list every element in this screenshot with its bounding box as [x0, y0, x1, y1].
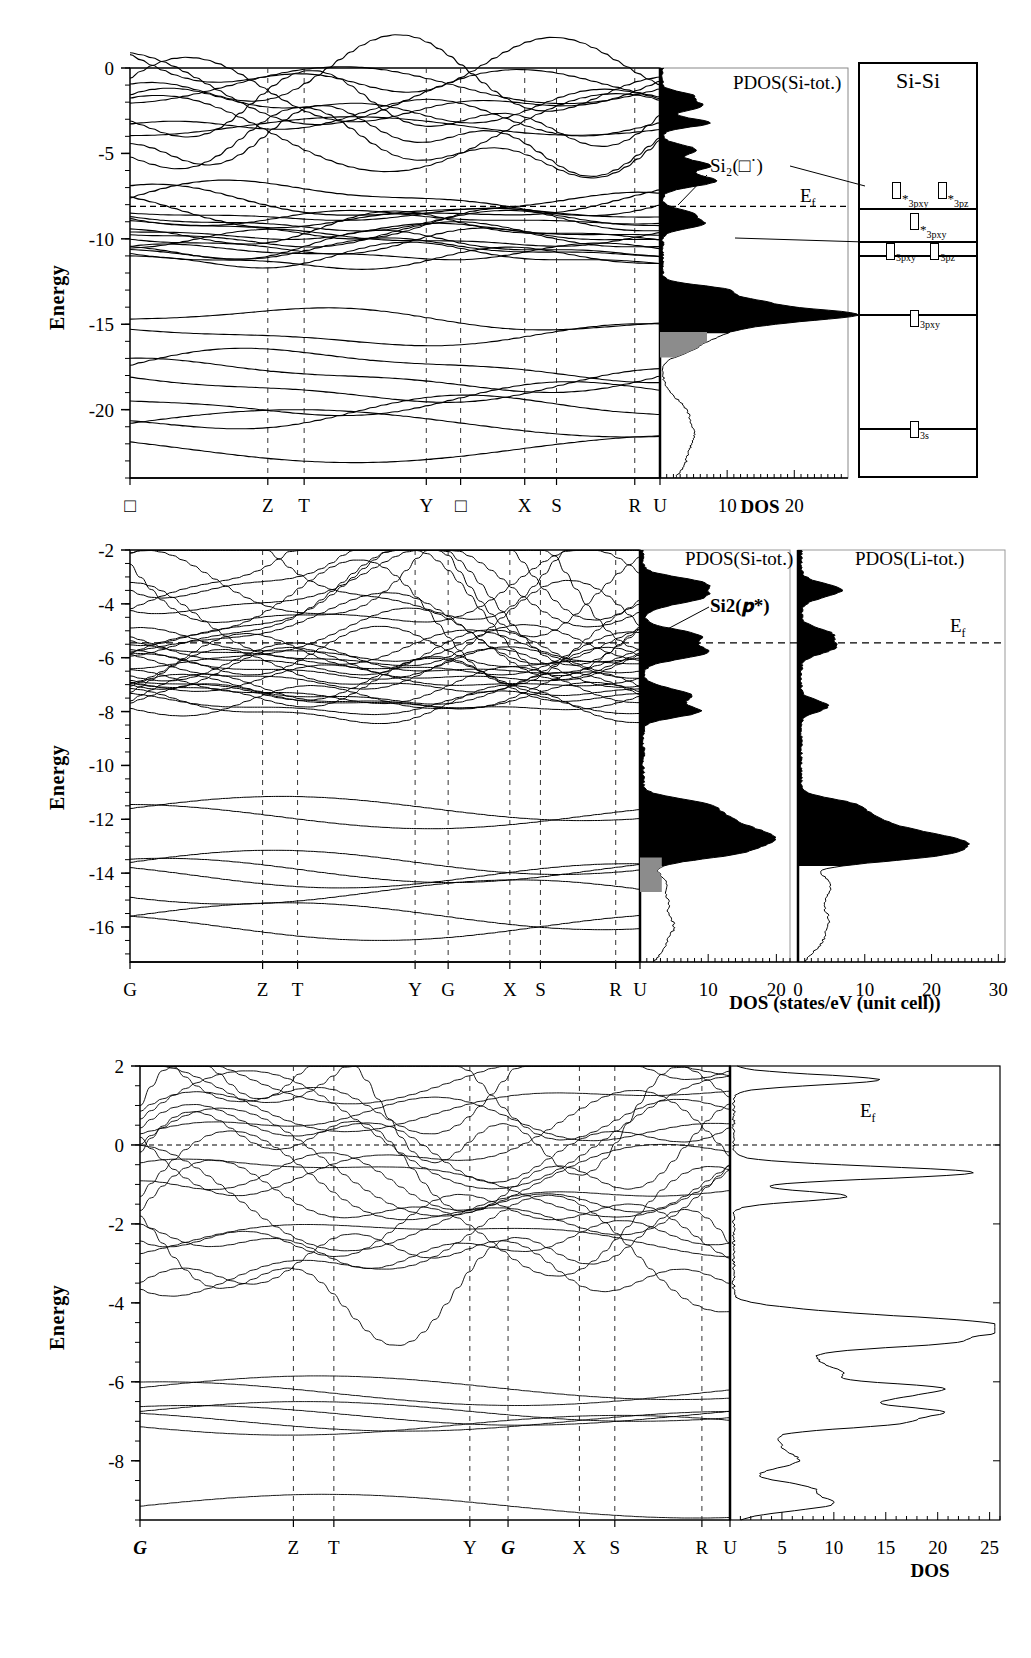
panel-2-band-structure-dos: Energy -2-4-6-8-10-12-14-16GZTYGXSRU1020…	[0, 530, 1031, 1030]
si-si-orbital-marker	[938, 182, 947, 199]
svg-text:-8: -8	[98, 702, 114, 723]
svg-text:-16: -16	[89, 917, 114, 938]
panel3-fermi-e: E	[860, 1100, 872, 1121]
panel1-pdos-label: PDOS(Si-tot.)	[733, 72, 841, 94]
panel2-fermi-label: Ef	[950, 615, 966, 641]
panel-3-band-structure-dos: Energy 20-2-4-6-8GZTYGXSRU510152025 DOS …	[0, 1020, 1031, 1620]
panel2-fermi-sub: f	[962, 626, 966, 640]
si-si-level-divider	[860, 255, 976, 257]
svg-text:-8: -8	[108, 1451, 124, 1472]
si-si-title: Si-Si	[860, 68, 976, 94]
svg-text:□: □	[124, 495, 136, 516]
si-si-orbital-label: 3s	[920, 430, 929, 441]
svg-text:-4: -4	[98, 594, 114, 615]
svg-text:-6: -6	[98, 648, 114, 669]
panel3-dos-axis-title: DOS	[870, 1560, 990, 1582]
panel1-si2-annotation: Si₂(□˙)	[710, 155, 763, 177]
svg-text:2: 2	[115, 1056, 125, 1077]
svg-text:Z: Z	[257, 979, 269, 1000]
svg-text:U: U	[653, 495, 667, 516]
svg-text:□: □	[455, 495, 467, 516]
svg-text:Y: Y	[419, 495, 433, 516]
svg-text:-2: -2	[98, 540, 114, 561]
panel2-pdos-li-label: PDOS(Li-tot.)	[855, 548, 964, 570]
svg-text:0: 0	[115, 1135, 125, 1156]
svg-text:-14: -14	[89, 863, 115, 884]
svg-text:X: X	[573, 1537, 587, 1558]
svg-text:Y: Y	[408, 979, 422, 1000]
panel2-pdos-si-label: PDOS(Si-tot.)	[685, 548, 793, 570]
svg-text:-2: -2	[108, 1214, 124, 1235]
svg-text:R: R	[628, 495, 641, 516]
svg-text:-6: -6	[108, 1372, 124, 1393]
svg-text:R: R	[609, 979, 622, 1000]
svg-text:S: S	[535, 979, 546, 1000]
si-si-orbital-label: *3pxy	[920, 222, 947, 240]
panel3-fermi-label: Ef	[860, 1100, 876, 1126]
svg-text:-12: -12	[89, 809, 114, 830]
panel1-dos-axis-title: DOS	[700, 496, 820, 518]
si-si-orbital-marker	[910, 213, 919, 230]
panel1-fermi-e: E	[800, 185, 812, 206]
svg-text:-10: -10	[89, 755, 114, 776]
svg-text:X: X	[518, 495, 532, 516]
svg-text:15: 15	[876, 1537, 895, 1558]
si-si-orbital-label: *3pz	[948, 191, 969, 209]
si-si-orbital-label: *3pxy	[902, 191, 929, 209]
si-si-level-diagram: Si-Si *3pxy*3pz*3pxy3pxy3pz3pxy3s	[858, 62, 978, 478]
svg-text:10: 10	[824, 1537, 843, 1558]
svg-text:-15: -15	[89, 314, 114, 335]
svg-text:U: U	[723, 1537, 737, 1558]
svg-text:G: G	[133, 1537, 147, 1558]
si-si-orbital-marker	[910, 421, 919, 438]
svg-text:G: G	[441, 979, 455, 1000]
si-si-orbital-marker	[910, 310, 919, 327]
svg-text:20: 20	[928, 1537, 947, 1558]
svg-text:5: 5	[777, 1537, 787, 1558]
si-si-orbital-label: 3pz	[940, 252, 954, 263]
svg-text:0: 0	[105, 58, 115, 79]
svg-text:G: G	[501, 1537, 515, 1558]
svg-text:25: 25	[980, 1537, 999, 1558]
panel-1-band-structure-dos: Energy 0-5-10-15-20□ZTY□XSRU1020 DOS PDO…	[0, 0, 1031, 540]
panel1-fermi-sub: f	[812, 196, 816, 210]
svg-text:T: T	[298, 495, 310, 516]
panel2-dos-axis-title: DOS (states/eV (unit cell))	[640, 992, 1030, 1014]
panel3-fermi-sub: f	[872, 1111, 876, 1125]
svg-text:-10: -10	[89, 229, 114, 250]
panel2-fermi-e: E	[950, 615, 962, 636]
svg-text:Z: Z	[288, 1537, 300, 1558]
svg-text:-20: -20	[89, 400, 114, 421]
si-si-orbital-marker	[886, 243, 895, 260]
svg-text:T: T	[328, 1537, 340, 1558]
svg-text:T: T	[292, 979, 304, 1000]
si-si-orbital-marker	[930, 243, 939, 260]
svg-text:R: R	[696, 1537, 709, 1558]
svg-text:-5: -5	[98, 143, 114, 164]
panel1-fermi-label: Ef	[800, 185, 816, 211]
svg-text:S: S	[610, 1537, 621, 1558]
svg-text:Y: Y	[463, 1537, 477, 1558]
panel2-si2-annotation: Si2(𝒑*)	[710, 595, 770, 617]
si-si-orbital-label: 3pxy	[920, 319, 940, 330]
svg-text:Z: Z	[262, 495, 274, 516]
si-si-orbital-label: 3pxy	[896, 252, 916, 263]
svg-text:-4: -4	[108, 1293, 124, 1314]
svg-text:S: S	[551, 495, 562, 516]
svg-text:X: X	[503, 979, 517, 1000]
svg-text:G: G	[123, 979, 137, 1000]
si-si-level-divider	[860, 241, 976, 243]
si-si-orbital-marker	[892, 182, 901, 199]
